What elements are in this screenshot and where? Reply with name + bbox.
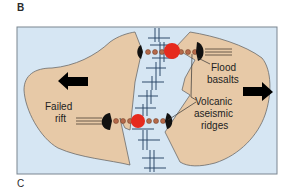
label-rift: rift: [55, 113, 66, 124]
label-aseismic: aseismic: [194, 108, 233, 119]
label-failed: Failed: [45, 101, 72, 112]
label-flood: Flood: [211, 62, 236, 73]
label-basalts: basalts: [207, 74, 239, 85]
lower-hotspot: [131, 114, 145, 128]
label-volcanic: Volcanic: [195, 96, 232, 107]
rift-diagram: Flood basalts Failed rift Volcanic aseis…: [0, 0, 294, 193]
label-ridges: ridges: [201, 120, 228, 131]
upper-hotspot: [164, 43, 180, 59]
